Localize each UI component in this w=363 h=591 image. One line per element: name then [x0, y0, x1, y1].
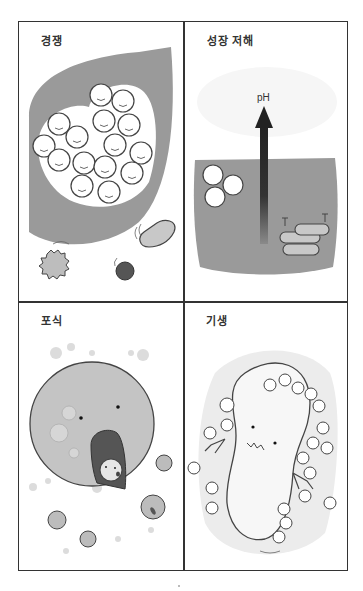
- stray-mark: [178, 585, 180, 587]
- ph-arrow-label: pH: [257, 92, 270, 103]
- panel-parasitism: 기생: [185, 303, 347, 570]
- parasitism-illustration: [185, 303, 347, 570]
- panel-predation: 포식: [19, 303, 183, 570]
- panel-growth-inhibition: 성장 저해 pH: [185, 22, 347, 301]
- competition-illustration: [19, 22, 183, 301]
- panel-competition: 경쟁: [19, 22, 183, 301]
- growth-inhibition-illustration: [185, 22, 347, 301]
- predation-illustration: [19, 303, 183, 570]
